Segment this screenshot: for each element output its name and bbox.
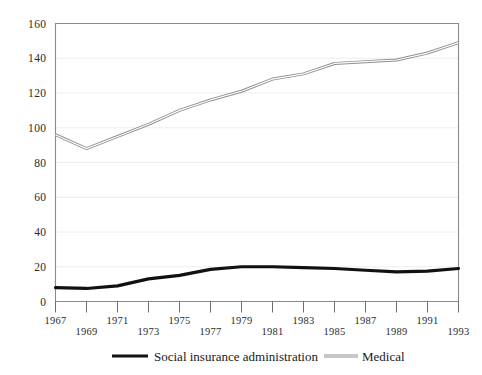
chart-canvas: 020406080100120140160 196719691971197319… bbox=[0, 0, 482, 375]
y-axis-label-100: 100 bbox=[28, 122, 46, 134]
x-axis-label-1983: 1983 bbox=[292, 315, 314, 326]
y-axis-labels-group: 020406080100120140160 bbox=[28, 18, 46, 308]
x-axis-label-1971: 1971 bbox=[106, 315, 128, 326]
x-axis-label-1969: 1969 bbox=[75, 326, 97, 337]
x-axis-label-1975: 1975 bbox=[168, 315, 190, 326]
x-axis-label-1989: 1989 bbox=[385, 326, 407, 337]
y-axis-label-60: 60 bbox=[34, 191, 46, 203]
series-line-social-insurance-administration bbox=[56, 267, 459, 289]
y-axis-label-120: 120 bbox=[28, 87, 46, 99]
data-series-group bbox=[56, 43, 459, 289]
legend-label-medical: Medical bbox=[362, 349, 405, 364]
y-axis-label-0: 0 bbox=[40, 296, 46, 308]
line-chart: 020406080100120140160 196719691971197319… bbox=[0, 0, 482, 375]
x-axis-label-1993: 1993 bbox=[447, 326, 469, 337]
x-tickmarks-group bbox=[56, 302, 459, 313]
x-axis-labels-group: 1967196919711973197519771979198119831985… bbox=[44, 315, 469, 337]
y-axis-label-20: 20 bbox=[34, 261, 46, 273]
gridlines-group bbox=[56, 58, 459, 267]
x-axis-label-1987: 1987 bbox=[354, 315, 376, 326]
chart-legend: Social insurance administrationMedical bbox=[112, 349, 405, 364]
x-axis-label-1991: 1991 bbox=[416, 315, 438, 326]
x-axis-label-1977: 1977 bbox=[199, 326, 221, 337]
x-axis-label-1979: 1979 bbox=[230, 315, 252, 326]
x-axis-label-1967: 1967 bbox=[44, 315, 66, 326]
y-axis-label-160: 160 bbox=[28, 18, 46, 30]
y-axis-label-140: 140 bbox=[28, 52, 46, 64]
y-axis-label-80: 80 bbox=[34, 157, 46, 169]
legend-label-social-insurance-administration: Social insurance administration bbox=[154, 349, 318, 364]
y-axis-label-40: 40 bbox=[34, 226, 46, 238]
x-axis-label-1981: 1981 bbox=[261, 326, 283, 337]
x-axis-label-1973: 1973 bbox=[137, 326, 159, 337]
x-axis-label-1985: 1985 bbox=[323, 326, 345, 337]
